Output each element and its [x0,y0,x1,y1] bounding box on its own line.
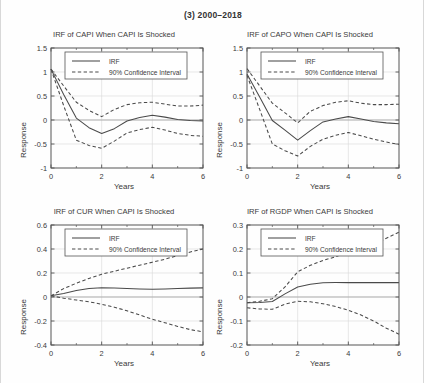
legend-cur: IRF90% Confidence Interval [65,229,187,256]
svg-text:-1: -1 [40,164,47,173]
panel-title-capi: IRF of CAPI When CAPI Is Shocked [15,30,213,39]
plot-canvas-rgdp: -0.2-0.100.10.20.30246IRF90% Confidence … [211,217,409,367]
panel-title-rgdp: IRF of RGDP When CAPI Is Shocked [211,207,409,216]
svg-text:-0.2: -0.2 [230,341,243,350]
panel-capi: IRF of CAPI When CAPI Is Shocked Respons… [15,30,213,195]
svg-text:0: 0 [49,172,53,181]
svg-text:0.2: 0.2 [37,269,47,278]
svg-text:0.1: 0.1 [233,269,243,278]
svg-text:6: 6 [201,172,205,181]
legend-label-ci: 90% Confidence Interval [109,246,181,253]
legend-capo: IRF90% Confidence Interval [261,52,383,79]
legend-label-irf: IRF [305,235,316,242]
svg-text:-0.4: -0.4 [34,341,47,350]
svg-text:0.4: 0.4 [37,245,47,254]
legend-label-ci: 90% Confidence Interval [109,69,181,76]
svg-text:0: 0 [239,116,243,125]
svg-text:2: 2 [100,349,104,358]
svg-text:0: 0 [43,293,47,302]
svg-text:4: 4 [150,349,154,358]
svg-text:0: 0 [245,349,249,358]
svg-text:6: 6 [397,349,401,358]
svg-text:0.2: 0.2 [233,245,243,254]
panel-rgdp: IRF of RGDP When CAPI Is Shocked Respons… [211,207,409,377]
svg-text:1.5: 1.5 [37,44,47,53]
svg-text:0: 0 [239,293,243,302]
svg-text:0.5: 0.5 [233,92,243,101]
svg-text:-1: -1 [236,164,243,173]
legend-label-ci: 90% Confidence Interval [305,246,377,253]
legend-rgdp: IRF90% Confidence Interval [261,229,383,256]
figure-page: (3) 2000–2018 IRF of CAPI When CAPI Is S… [0,0,424,383]
svg-text:4: 4 [346,172,350,181]
svg-text:2: 2 [100,172,104,181]
svg-text:1: 1 [43,68,47,77]
svg-text:6: 6 [201,349,205,358]
figure-title: (3) 2000–2018 [1,10,424,20]
svg-text:0: 0 [43,116,47,125]
svg-text:0: 0 [49,349,53,358]
svg-text:-0.5: -0.5 [34,140,47,149]
svg-text:-0.5: -0.5 [230,140,243,149]
legend-label-irf: IRF [305,58,316,65]
svg-text:2: 2 [296,172,300,181]
legend-label-irf: IRF [109,58,120,65]
panel-capo: IRF of CAPO When CAPI Is Shocked Respons… [211,30,409,195]
svg-text:4: 4 [150,172,154,181]
panel-title-capo: IRF of CAPO When CAPI Is Shocked [211,30,409,39]
plot-canvas-capo: -1-0.500.511.50246IRF90% Confidence Inte… [211,40,409,190]
svg-text:2: 2 [296,349,300,358]
plot-canvas-capi: -1-0.500.511.50246IRF90% Confidence Inte… [15,40,213,190]
svg-text:0: 0 [245,172,249,181]
plot-canvas-cur: -0.4-0.200.20.40.60246IRF90% Confidence … [15,217,213,367]
svg-text:6: 6 [397,172,401,181]
svg-text:0.5: 0.5 [37,92,47,101]
svg-text:1: 1 [239,68,243,77]
panel-cur: IRF of CUR When CAPI Is Shocked Response… [15,207,213,377]
svg-text:4: 4 [346,349,350,358]
svg-text:1.5: 1.5 [233,44,243,53]
legend-label-ci: 90% Confidence Interval [305,69,377,76]
svg-text:0.3: 0.3 [233,221,243,230]
legend-capi: IRF90% Confidence Interval [65,52,187,79]
svg-text:0.6: 0.6 [37,221,47,230]
panel-title-cur: IRF of CUR When CAPI Is Shocked [15,207,213,216]
legend-label-irf: IRF [109,235,120,242]
svg-text:-0.2: -0.2 [34,317,47,326]
svg-text:-0.1: -0.1 [230,317,243,326]
